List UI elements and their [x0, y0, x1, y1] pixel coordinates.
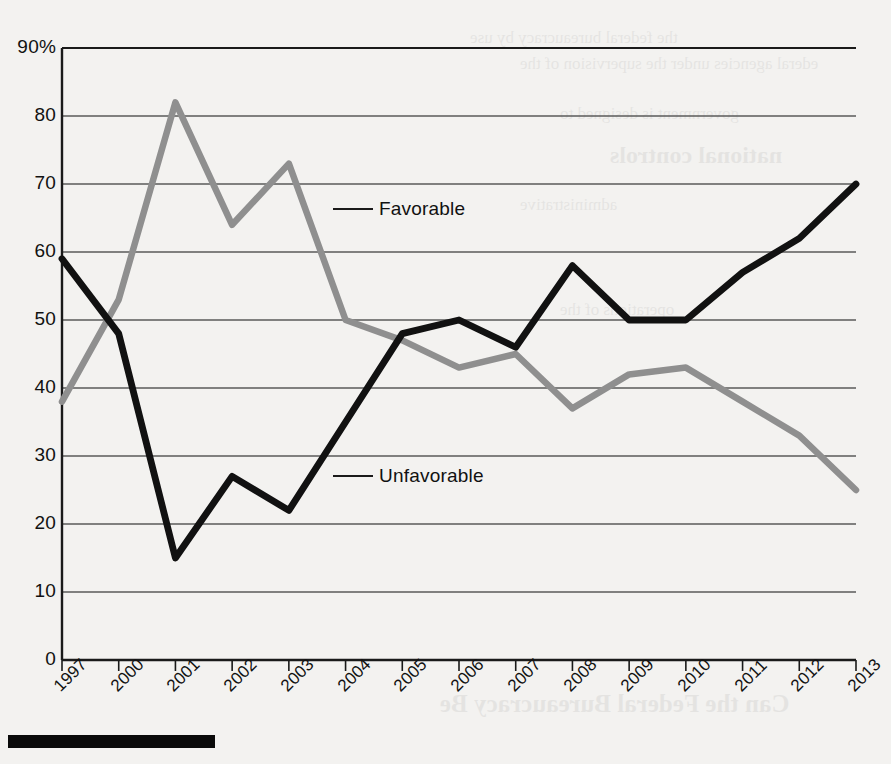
series-label-favorable: Favorable [379, 198, 465, 220]
y-axis-tick-label: 80 [0, 104, 56, 126]
bottom-black-rule [8, 735, 215, 748]
y-axis-tick-label: 40 [0, 376, 56, 398]
series-line-unfavorable [62, 184, 856, 558]
gridlines [62, 48, 856, 660]
y-axis-tick-label: 70 [0, 172, 56, 194]
y-axis-tick-label: 20 [0, 512, 56, 534]
favorability-line-chart: 0102030405060708090% 1997200020012002200… [0, 0, 891, 764]
y-axis-tick-label: 10 [0, 580, 56, 602]
y-axis-tick-label: 90% [0, 36, 56, 58]
series-label-unfavorable: Unfavorable [379, 465, 484, 487]
chart-plot-area [0, 0, 891, 764]
series-line-favorable [62, 102, 856, 490]
y-axis-tick-label: 50 [0, 308, 56, 330]
y-axis-tick-label: 60 [0, 240, 56, 262]
y-axis-tick-label: 30 [0, 444, 56, 466]
y-axis-tick-label: 0 [0, 648, 56, 670]
